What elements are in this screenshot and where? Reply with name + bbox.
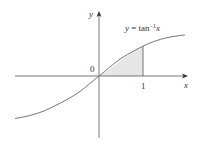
function-label: y = tan−1x: [124, 23, 160, 34]
x-tick-label-1: 1: [141, 81, 146, 91]
origin-label: 0: [90, 64, 95, 74]
x-axis-label: x: [183, 80, 188, 90]
function-label-eq: = tan: [129, 23, 150, 33]
arctan-curve: [15, 35, 185, 119]
arctan-graph: y x 0 1 y = tan−1x: [0, 0, 200, 146]
y-axis-label: y: [88, 9, 93, 19]
shaded-area: [99, 46, 143, 76]
function-label-var: x: [155, 23, 160, 33]
